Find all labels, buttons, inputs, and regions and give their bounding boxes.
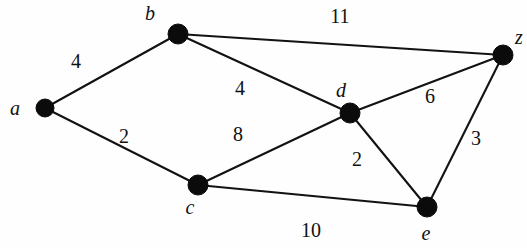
graph-edge-c-d (198, 113, 350, 185)
graph-figure: abcdez 42411810263 (0, 0, 527, 248)
node-label-d: d (336, 79, 347, 101)
graph-canvas: abcdez 42411810263 (0, 0, 527, 248)
edge-weight-b-z: 11 (330, 5, 349, 27)
edges-layer (45, 34, 503, 207)
edge-weight-d-e: 2 (352, 148, 362, 170)
node-labels-layer: abcdez (10, 2, 523, 244)
node-label-z: z (514, 26, 523, 48)
graph-edge-c-e (198, 185, 427, 207)
graph-node-d (340, 103, 360, 123)
graph-node-e (417, 197, 437, 217)
graph-node-c (188, 175, 208, 195)
nodes-layer (36, 24, 513, 217)
edge-weight-d-z: 6 (425, 85, 435, 107)
node-label-c: c (186, 196, 195, 218)
node-label-e: e (422, 222, 431, 244)
graph-edge-a-b (45, 34, 178, 108)
edge-weight-e-z: 3 (471, 127, 481, 149)
edge-weight-b-d: 4 (235, 77, 245, 99)
graph-edge-b-z (178, 34, 503, 55)
graph-node-z (493, 45, 513, 65)
edge-weight-a-c: 2 (119, 125, 129, 147)
node-label-a: a (10, 97, 20, 119)
edge-weight-a-b: 4 (71, 50, 81, 72)
graph-edge-b-d (178, 34, 350, 113)
edge-weight-c-e: 10 (301, 219, 321, 241)
graph-node-a (36, 99, 54, 117)
graph-node-b (168, 24, 188, 44)
edge-weight-c-d: 8 (233, 123, 243, 145)
graph-edge-e-z (427, 55, 503, 207)
node-label-b: b (145, 2, 155, 24)
